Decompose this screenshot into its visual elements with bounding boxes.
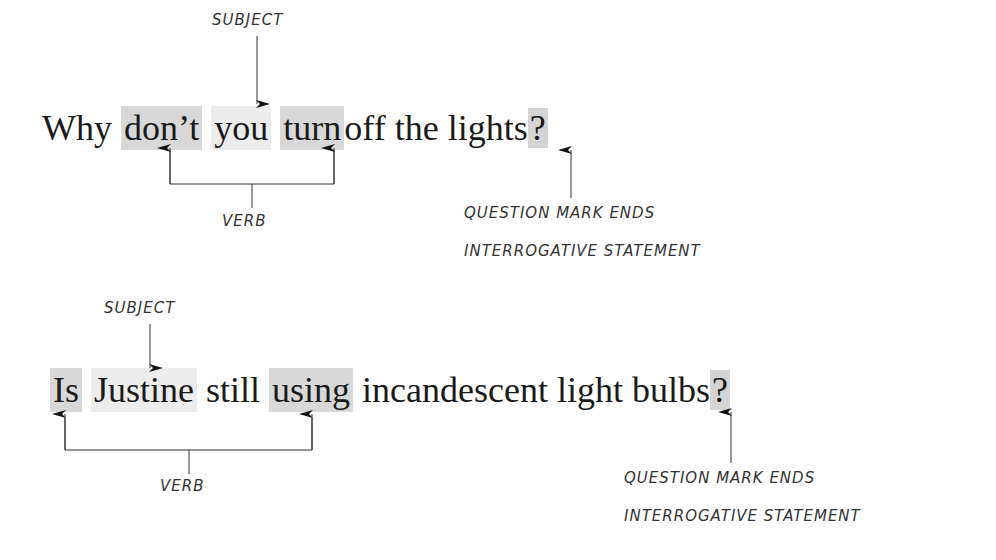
annotation-arrows	[0, 0, 996, 560]
